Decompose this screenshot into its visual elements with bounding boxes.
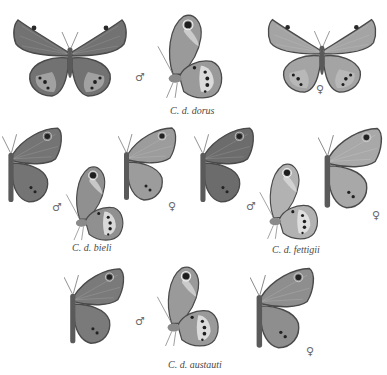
caption-austauti: C. d. austauti — [168, 360, 222, 370]
caption-bieli: C. d. bieli — [72, 243, 111, 253]
dorus-male-underside-specimen — [150, 12, 226, 100]
austauti-male-underside-specimen — [150, 264, 222, 348]
male-symbol: ♂ — [135, 72, 145, 83]
female-symbol: ♀ — [168, 201, 176, 212]
dorus-male-upperside-specimen — [12, 12, 128, 100]
caption-dorus: C. d. dorus — [170, 106, 214, 116]
butterfly-plate: ♂ ♀ C. d. dorus ♂ ♀ C. d. bieli ♂ ♀ C. d… — [0, 0, 387, 375]
austauti-male-upperside-specimen — [64, 262, 126, 348]
female-symbol: ♀ — [306, 346, 314, 357]
fettigii-female-upperside-specimen — [318, 122, 384, 212]
caption-fettigii: C. d. fettigii — [272, 245, 320, 255]
fettigii-male-upperside-specimen — [194, 124, 256, 204]
male-symbol: ♂ — [135, 316, 145, 327]
female-symbol: ♀ — [372, 210, 380, 221]
bieli-female-upperside-specimen — [118, 124, 178, 202]
austauti-female-upperside-specimen — [250, 262, 316, 352]
female-symbol: ♀ — [316, 84, 324, 95]
bieli-male-underside-specimen — [60, 164, 126, 242]
fettigii-male-underside-specimen — [254, 160, 320, 242]
bieli-male-upperside-specimen — [2, 124, 64, 204]
